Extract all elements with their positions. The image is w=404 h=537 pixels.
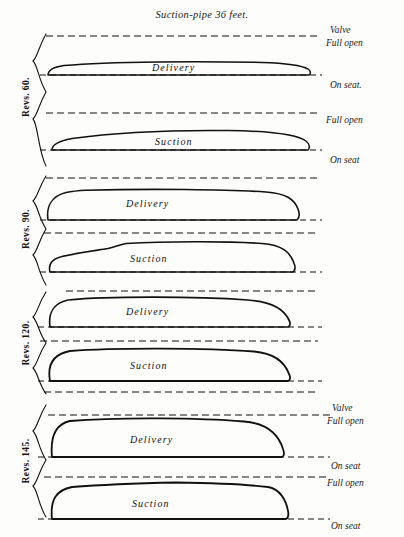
group-revs-120 bbox=[33, 291, 322, 394]
reference-label-full-open-60-suction: Full open bbox=[326, 115, 363, 125]
valve-label-60-suction: Suction bbox=[155, 136, 193, 147]
group-label-revs-90: Revs. 90. bbox=[21, 199, 31, 259]
valve-label-145-delivery: Delivery bbox=[130, 434, 173, 445]
reference-label-on-seat-145-suction: On seat bbox=[331, 521, 360, 531]
valve-label-120-suction: Suction bbox=[130, 360, 168, 371]
group-label-revs-60: Revs. 60. bbox=[21, 67, 31, 127]
reference-label-on-seat-145-delivery: On seat bbox=[331, 461, 360, 471]
valve-label-90-suction: Suction bbox=[130, 253, 168, 264]
valve-trace-120-delivery bbox=[50, 297, 290, 327]
valve-label-90-delivery: Delivery bbox=[126, 198, 169, 209]
reference-label-full-open-145-suction: Full open bbox=[327, 478, 364, 488]
figure-page: Suction-pipe 36 feet. bbox=[0, 0, 404, 537]
brace-revs-60 bbox=[33, 34, 46, 166]
valve-label-60-delivery: Delivery bbox=[152, 62, 195, 73]
group-revs-145 bbox=[33, 392, 330, 519]
reference-label-full-open-60-delivery: Full open bbox=[326, 38, 363, 48]
brace-revs-145 bbox=[33, 405, 46, 517]
reference-label-valve-145: Valve bbox=[332, 403, 353, 413]
group-revs-90 bbox=[33, 176, 322, 285]
valve-trace-120-suction bbox=[49, 349, 290, 381]
valve-label-145-suction: Suction bbox=[132, 498, 170, 509]
reference-label-valve-60: Valve bbox=[330, 25, 351, 35]
brace-revs-120 bbox=[33, 292, 46, 394]
reference-label-on-seat-60-suction: On seat bbox=[330, 155, 359, 165]
group-label-revs-145: Revs. 145. bbox=[21, 431, 31, 491]
reference-label-full-open-145-delivery: Full open bbox=[327, 416, 364, 426]
valve-trace-145-suction bbox=[52, 483, 289, 520]
valve-label-120-delivery: Delivery bbox=[126, 306, 169, 317]
valve-trace-90-suction bbox=[50, 242, 296, 272]
group-label-revs-120: Revs. 120. bbox=[21, 313, 31, 373]
valve-trace-90-delivery bbox=[48, 189, 299, 220]
brace-revs-90 bbox=[33, 176, 46, 285]
reference-label-on-seat-60-delivery: On seat. bbox=[330, 80, 362, 90]
